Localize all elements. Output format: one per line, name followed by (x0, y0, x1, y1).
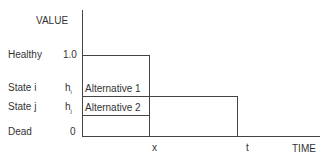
tick-1: 1.0 (63, 49, 77, 61)
y-axis-label: VALUE (36, 15, 68, 27)
alternative-2-label: Alternative 2 (85, 102, 141, 114)
tick-0: 0 (70, 126, 76, 138)
row-label-state-j: State j (8, 101, 36, 113)
state-i-line (82, 96, 237, 97)
alternative-1-label: Alternative 1 (85, 83, 141, 95)
state-j-line (82, 115, 149, 116)
x-axis (82, 136, 320, 137)
healthy-line (82, 55, 149, 56)
tick-x: x (152, 142, 157, 154)
row-label-dead: Dead (8, 126, 32, 138)
row-label-state-i: State i (8, 82, 36, 94)
tick-hj: hj (65, 101, 72, 117)
y-axis (82, 10, 83, 137)
x-axis-label: TIME (292, 143, 316, 155)
tick-hi: hi (65, 82, 72, 98)
tick-t: t (246, 142, 249, 154)
row-label-healthy: Healthy (8, 49, 42, 61)
t-line (237, 96, 238, 136)
